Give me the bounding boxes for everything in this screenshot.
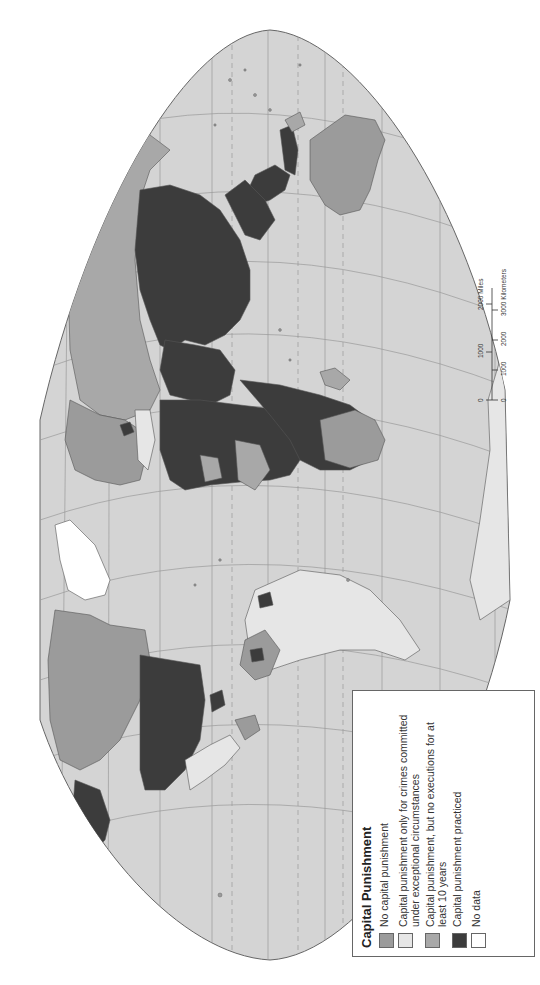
legend-label: Capital punishment only for crimes commi…: [397, 699, 421, 927]
scale-km-1000: 1000: [500, 361, 507, 376]
legend-label: No data: [470, 890, 482, 927]
legend-item-no-data: No data: [470, 699, 486, 948]
legend-label: No capital punishment: [378, 823, 390, 927]
scale-miles-1000: 1000: [477, 343, 484, 358]
legend-label: Capital punishment, but no executions fo…: [424, 699, 448, 927]
legend-item-exceptional-only: Capital punishment only for crimes commi…: [397, 699, 421, 948]
legend-swatch: [471, 933, 486, 948]
legend-label: Capital punishment practiced: [451, 792, 463, 927]
scale-km-2000: 2000: [500, 331, 507, 346]
legend-item-no-capital-punishment: No capital punishment: [378, 699, 394, 948]
legend-swatch: [379, 933, 394, 948]
scale-km-0: 0: [500, 398, 507, 402]
scale-km-3000: 3000 Kilometers: [500, 268, 507, 316]
scale-bar: 0 1000 2000 Miles 0 1000 2000 3000 Kilom…: [470, 238, 520, 408]
region-venezuela-area: [250, 648, 264, 662]
legend-item-practiced: Capital punishment practiced: [451, 699, 467, 948]
scale-miles-0: 0: [477, 398, 484, 402]
legend-swatch: [425, 933, 440, 948]
legend-swatch: [398, 933, 413, 948]
scale-bar-graphic: 0 1000 2000 Miles 0 1000 2000 3000 Kilom…: [470, 238, 520, 408]
scale-miles-2000: 2000 Miles: [477, 278, 484, 310]
legend: Capital Punishment No capital punishment…: [352, 690, 535, 957]
legend-swatch: [452, 933, 467, 948]
legend-title: Capital Punishment: [359, 699, 374, 948]
legend-item-no-executions-10-years: Capital punishment, but no executions fo…: [424, 699, 448, 948]
